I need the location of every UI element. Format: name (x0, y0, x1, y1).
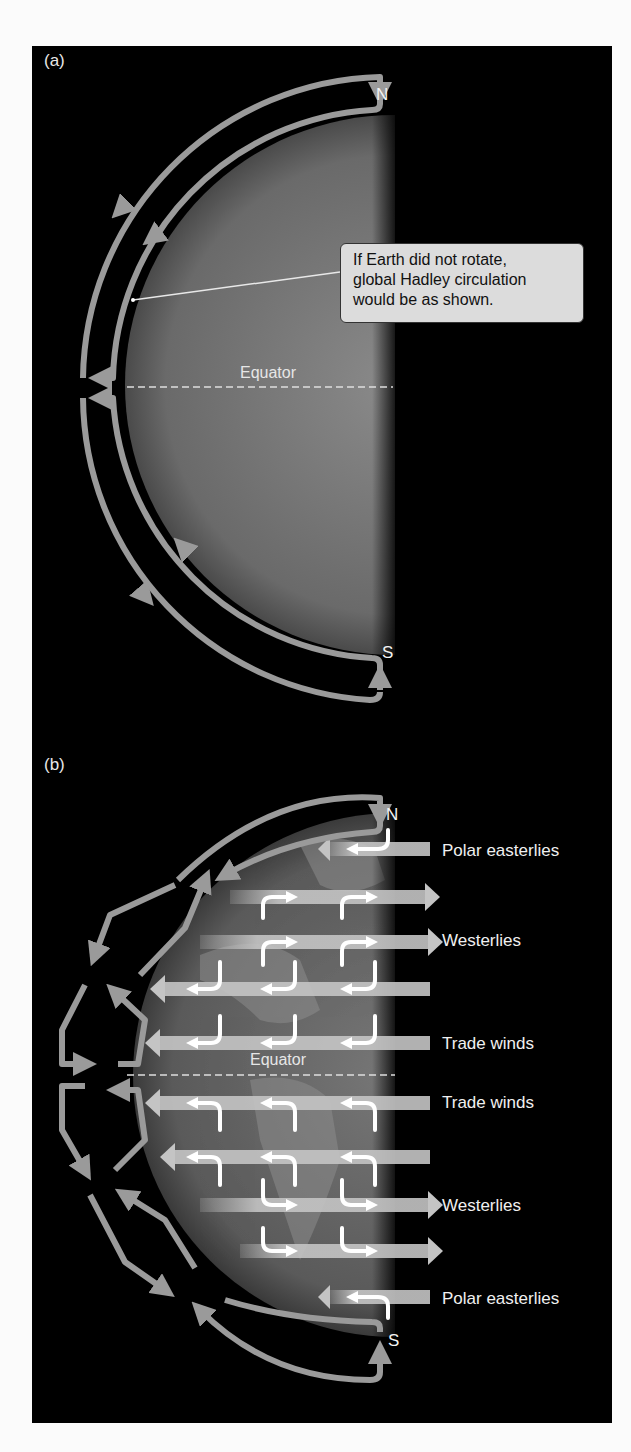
south-pole-label-b: S (388, 1332, 399, 1349)
south-pole-label-a: S (382, 644, 393, 661)
callout-line: would be as shown. (353, 290, 577, 310)
wind-label-westerlies-south: Westerlies (442, 1197, 521, 1214)
equator-label-b: Equator (250, 1052, 306, 1068)
panel-b (62, 797, 443, 1380)
callout-box: If Earth did not rotate, global Hadley c… (340, 243, 584, 323)
callout-line: If Earth did not rotate, (353, 250, 577, 270)
wind-label-trade-winds-north: Trade winds (442, 1035, 534, 1052)
wind-label-trade-winds-south: Trade winds (442, 1094, 534, 1111)
circulation-diagram (0, 0, 631, 1452)
north-pole-label-b: N (386, 806, 398, 823)
panel-a (83, 77, 400, 700)
panel-b-label: (b) (44, 756, 65, 773)
north-pole-label-a: N (376, 86, 388, 103)
callout-line: global Hadley circulation (353, 270, 577, 290)
wind-label-westerlies-north: Westerlies (442, 932, 521, 949)
wind-label-polar-easterlies-north: Polar easterlies (442, 842, 559, 859)
global-circulation-figure: (a) N S Equator If Earth did not rotate,… (0, 0, 631, 1452)
equator-label-a: Equator (240, 365, 296, 381)
panel-a-label: (a) (44, 52, 65, 69)
wind-label-polar-easterlies-south: Polar easterlies (442, 1290, 559, 1307)
